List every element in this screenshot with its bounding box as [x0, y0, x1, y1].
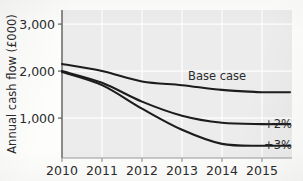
- y-tick-label: 1,000: [19, 111, 55, 126]
- x-tick-label: 2014: [206, 163, 238, 178]
- x-tick-label: 2012: [126, 163, 158, 178]
- x-tick-label: 2010: [46, 163, 78, 178]
- y-tick-label: 3,000: [19, 17, 55, 32]
- x-tick-label: 2013: [166, 163, 198, 178]
- chart-canvas: 1,0002,0003,000 201020112012201320142015…: [0, 0, 303, 181]
- y-tick-label: 2,000: [19, 64, 55, 79]
- series-annotation-2: +2%: [264, 117, 292, 131]
- x-tick-label: 2011: [86, 163, 118, 178]
- y-axis-tick-labels: 1,0002,0003,000: [19, 17, 55, 126]
- series-annotation-3: +3%: [264, 138, 292, 152]
- series-annotation-base-case: Base case: [188, 69, 246, 83]
- x-axis-tick-labels: 201020112012201320142015: [46, 163, 278, 178]
- chart-screenshot: 1,0002,0003,000 201020112012201320142015…: [0, 0, 303, 181]
- y-axis-label: Annual cash flow (£000): [5, 14, 19, 154]
- line-chart: 1,0002,0003,000 201020112012201320142015…: [0, 0, 303, 181]
- x-tick-label: 2015: [246, 163, 278, 178]
- x-axis-tick-marks: [62, 158, 262, 162]
